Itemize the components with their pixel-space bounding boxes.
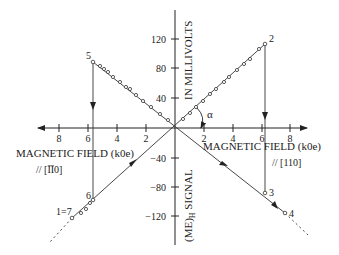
x-tick-left-4: 4 [115,133,120,144]
alpha-label: α [207,108,213,120]
point-label-4: 4 [289,208,294,219]
data-markers [70,42,287,220]
x-tick-left-2: 2 [144,133,149,144]
x-axis-title-right: MAGNETIC FIELD (k0e) [203,140,321,153]
arrow-down-2-3 [262,112,268,120]
x-axis-subtitle-left: // [ĪĪ0] [36,164,62,175]
y-tick-120: 120 [151,34,166,45]
x-axis-subtitle-right: // [110] [272,157,301,168]
x-tick-left-8: 8 [57,133,62,144]
point-label-5: 5 [86,50,91,61]
y-tick-neg40: −40 [150,153,166,164]
point-label-1-7: 1=7 [56,206,72,217]
y-axis-title-top: IN MILLIVOLTS [182,21,194,100]
y-tick-neg80: −80 [150,182,166,193]
x-axis-title-left: MAGNETIC FIELD (k0e) [16,147,134,160]
point-label-2: 2 [269,33,274,44]
point-label-3: 3 [269,187,274,198]
dashed-ext-lower-left [50,218,72,242]
y-tick-neg120: −120 [145,211,166,222]
y-tick-40: 40 [156,93,166,104]
alpha-arc [197,108,203,128]
point-label-6: 6 [86,190,91,201]
me-signal-chart: 2 4 6 8 8 6 4 2 120 80 40 −40 −80 −120 M… [0,0,339,255]
y-axis-title-bottom: (ME)H SIGNAL [182,169,197,242]
x-tick-left-6: 6 [86,133,91,144]
arrow-down-right-3-4 [271,201,278,209]
y-tick-80: 80 [156,63,166,74]
arrow-down-5-6 [90,102,96,110]
